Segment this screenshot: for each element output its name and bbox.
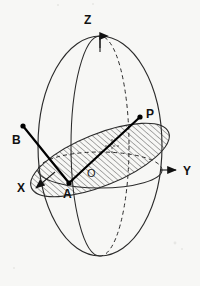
point-b-dot xyxy=(20,123,25,128)
point-a-label: A xyxy=(63,187,72,201)
point-o-label: O xyxy=(87,167,96,179)
point-a-dot xyxy=(66,180,71,185)
sphere-diagram-figure: Z Y X P B A O xyxy=(0,0,200,286)
diagram-canvas: Z Y X P B A O xyxy=(0,0,200,286)
y-axis-label: Y xyxy=(183,164,191,178)
point-p-dot xyxy=(137,114,142,119)
point-b-label: B xyxy=(12,133,21,147)
z-axis-label: Z xyxy=(84,13,91,27)
point-p-label: P xyxy=(146,107,154,121)
x-axis-label: X xyxy=(17,181,25,195)
